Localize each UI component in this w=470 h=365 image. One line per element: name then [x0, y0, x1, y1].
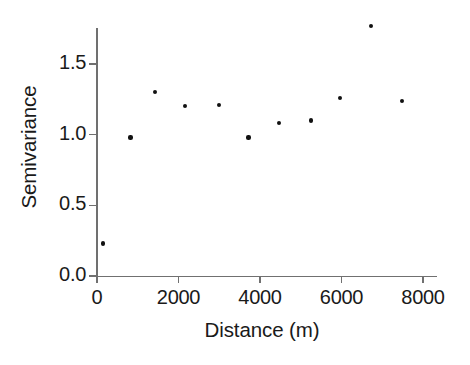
y-axis-tick	[89, 134, 96, 136]
x-axis-tick-label: 6000	[297, 286, 387, 309]
y-axis-tick-label: 0.0	[34, 263, 86, 286]
y-axis-tick	[89, 63, 96, 65]
x-axis-tick-label: 0	[52, 286, 142, 309]
x-axis-tick-label: 4000	[215, 286, 305, 309]
data-point	[246, 135, 250, 139]
x-axis-tick-label: 2000	[134, 286, 224, 309]
plot-area	[97, 28, 437, 276]
data-point	[128, 135, 132, 139]
data-point	[400, 99, 404, 103]
x-axis-tick	[96, 276, 98, 283]
y-axis-tick	[89, 275, 96, 277]
y-axis-tick-label: 0.5	[34, 192, 86, 215]
data-point	[309, 118, 313, 122]
y-axis-tick-label: 1.5	[34, 51, 86, 74]
x-axis-tick	[422, 276, 424, 283]
x-axis-tick	[178, 276, 180, 283]
data-point	[101, 241, 105, 245]
x-axis-tick	[259, 276, 261, 283]
x-axis-tick	[341, 276, 343, 283]
y-axis-tick-label: 1.0	[34, 122, 86, 145]
y-axis-label: Semivariance	[14, 2, 44, 292]
semivariogram-figure: Semivariance Distance (m) 0.00.51.01.502…	[0, 0, 470, 365]
x-axis-label: Distance (m)	[97, 318, 427, 342]
y-axis-tick	[89, 205, 96, 207]
x-axis-tick-label: 8000	[378, 286, 468, 309]
